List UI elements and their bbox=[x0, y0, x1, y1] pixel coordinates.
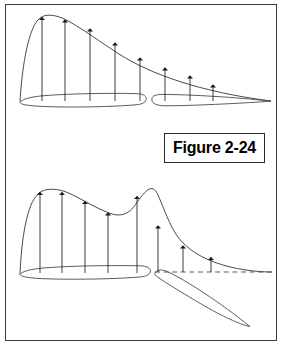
lift-distribution-curve-lower bbox=[20, 189, 272, 275]
panel-flap-retracted bbox=[20, 15, 271, 107]
figure-label-box: Figure 2-24 bbox=[164, 133, 265, 163]
pressure-arrows-upper bbox=[42, 19, 213, 102]
figure-page: Figure 2-24 bbox=[0, 0, 283, 347]
lift-distribution-curve-upper bbox=[20, 15, 271, 102]
airfoil-flap-lower-extended bbox=[155, 270, 250, 327]
airfoil-main-body-upper bbox=[20, 93, 146, 107]
panel-flap-extended bbox=[20, 189, 272, 327]
airfoil-flap-upper bbox=[152, 94, 271, 105]
figure-label-text: Figure 2-24 bbox=[173, 139, 256, 157]
figure-illustration bbox=[0, 0, 283, 347]
pressure-arrows-lower bbox=[40, 194, 211, 274]
